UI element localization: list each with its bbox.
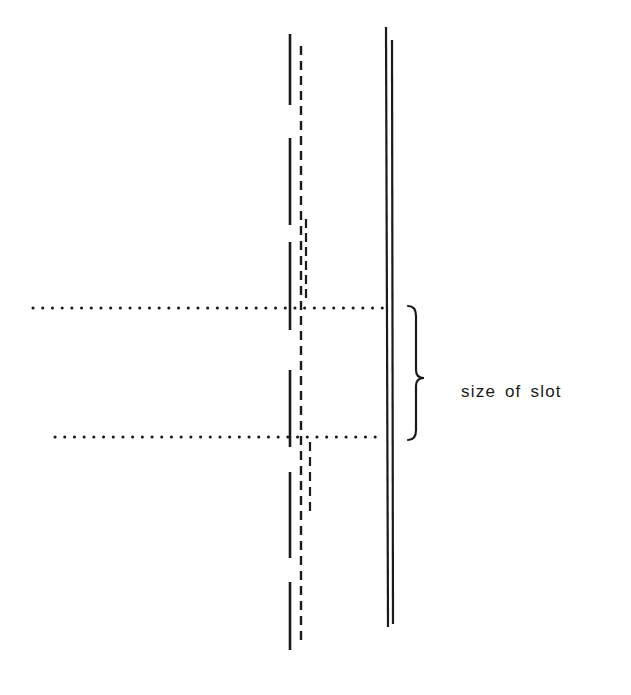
slot-boundary-dotted-lines: [33, 308, 384, 437]
right-double-line: [386, 27, 393, 627]
curly-brace-icon: [408, 306, 424, 440]
wall-line-outer: [386, 27, 388, 627]
size-of-slot-label: size of slot: [461, 382, 562, 402]
brace-path: [408, 306, 424, 440]
slot-diagram: [0, 0, 631, 695]
wall-line-inner: [392, 40, 393, 624]
